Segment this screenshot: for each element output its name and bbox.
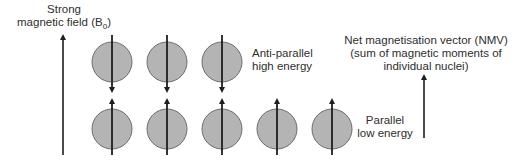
parallel-nucleus-2 — [147, 101, 187, 155]
antiparallel-label-line1: Anti-parallel — [252, 47, 313, 60]
antiparallel-label: Anti-parallel high energy — [252, 47, 313, 73]
parallel-nucleus-4 — [257, 101, 297, 155]
antiparallel-nucleus-3 — [202, 35, 242, 90]
field-label: Strong magnetic field (B0) — [14, 3, 114, 33]
antiparallel-nucleus-2 — [147, 35, 187, 90]
antiparallel-label-line2: high energy — [252, 60, 313, 73]
antiparallel-nucleus-1 — [92, 35, 132, 90]
field-label-line2: magnetic field (B0) — [14, 16, 114, 33]
magnetic-alignment-diagram: Strong magnetic field (B0) Anti-parallel… — [0, 0, 513, 162]
field-label-line1: Strong — [14, 3, 114, 16]
parallel-label-line2: low energy — [350, 127, 420, 140]
nmv-label-line2: (sum of magnetic moments of — [340, 47, 512, 60]
nmv-label-line1: Net magnetisation vector (NMV) — [340, 34, 512, 47]
parallel-nucleus-5 — [312, 101, 352, 155]
parallel-nucleus-3 — [202, 101, 242, 155]
parallel-label-line1: Parallel — [350, 114, 420, 127]
parallel-nucleus-1 — [92, 101, 132, 155]
nmv-label-line3: individual nuclei) — [340, 60, 512, 73]
nmv-label: Net magnetisation vector (NMV) (sum of m… — [340, 34, 512, 73]
parallel-label: Parallel low energy — [350, 114, 420, 140]
